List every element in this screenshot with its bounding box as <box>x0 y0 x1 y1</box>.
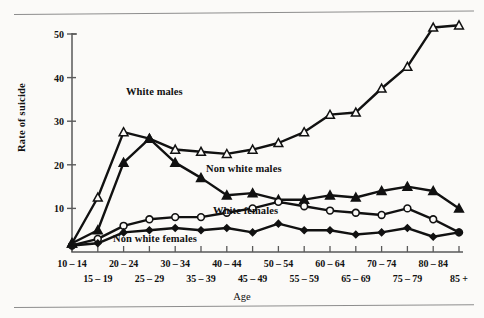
x-axis-label: Age <box>0 291 484 302</box>
y-tick-30: 30 <box>54 116 64 127</box>
figure-container: Rate of suicide Age 1020304050 10 – 1415… <box>0 0 484 318</box>
y-tick-40: 40 <box>54 72 64 83</box>
x-tick-80-84: 80 – 84 <box>419 258 448 269</box>
x-tick-60-64: 60 – 64 <box>315 258 344 269</box>
y-axis-label: Rate of suicide <box>16 63 27 173</box>
chart-svg <box>0 0 484 318</box>
x-tick-85plus: 85 + <box>450 273 468 284</box>
y-tick-10: 10 <box>54 203 64 214</box>
chart-plot-area <box>0 0 484 318</box>
x-tick-75-79: 75 – 79 <box>393 273 422 284</box>
x-tick-10-14: 10 – 14 <box>57 258 86 269</box>
y-tick-20: 20 <box>54 159 64 170</box>
x-tick-45-49: 45 – 49 <box>238 273 267 284</box>
x-tick-35-39: 35 – 39 <box>186 273 215 284</box>
x-tick-55-59: 55 – 59 <box>290 273 319 284</box>
series-label-non-white-males: Non white males <box>206 163 282 174</box>
x-tick-40-44: 40 – 44 <box>212 258 241 269</box>
series-label-white-males: White males <box>126 86 183 97</box>
series-label-non-white-females: Non white females <box>113 233 197 244</box>
x-tick-20-24: 20 – 24 <box>109 258 138 269</box>
x-tick-70-74: 70 – 74 <box>367 258 396 269</box>
x-tick-30-34: 30 – 34 <box>161 258 190 269</box>
x-tick-50-54: 50 – 54 <box>264 258 293 269</box>
x-tick-15-19: 15 – 19 <box>83 273 112 284</box>
y-tick-50: 50 <box>54 29 64 40</box>
x-tick-25-29: 25 – 29 <box>135 273 164 284</box>
series-label-white-females: White females <box>213 205 278 216</box>
x-tick-65-69: 65 – 69 <box>341 273 370 284</box>
